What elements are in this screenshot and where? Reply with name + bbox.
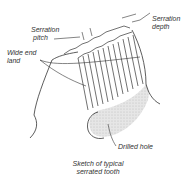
tooth-left-flank [30, 60, 52, 138]
serration-pitch-label-line2: pitch [31, 34, 59, 42]
caption-line1: Sketch of typical [58, 160, 138, 168]
serration-depth-label: Serration depth [152, 15, 180, 31]
caption-line2: serrated tooth [58, 168, 138, 176]
serration-pitch-label-line1: Serration [31, 26, 59, 34]
figure-caption: Sketch of typical serrated tooth [58, 160, 138, 176]
wide-end-land-label-line1: Wide end [7, 49, 37, 57]
serration-pitch-label: Serration pitch [31, 26, 59, 42]
drilled-hole-shading [89, 84, 148, 137]
drilled-hole-label: Drilled hole [118, 143, 153, 151]
serration-crests [64, 26, 132, 58]
wide-end-land-label: Wide end land [7, 49, 37, 65]
serration-depth-label-line2: depth [152, 23, 180, 31]
wide-end-land-label-line2: land [7, 57, 37, 65]
serration-depth-label-line1: Serration [152, 15, 180, 23]
